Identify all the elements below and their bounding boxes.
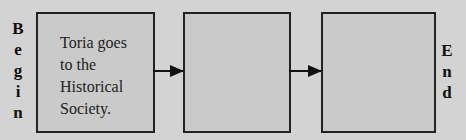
text-line: to the (60, 54, 127, 76)
arrow-1-to-2 (153, 70, 183, 72)
begin-letter: B (12, 18, 23, 39)
end-letter: E (441, 40, 452, 61)
end-letter: n (442, 61, 451, 82)
sequence-box-2 (183, 12, 291, 133)
begin-letter: g (14, 60, 23, 81)
end-letter: d (442, 82, 451, 103)
arrow-2-to-3 (289, 70, 321, 72)
sequence-box-3 (321, 12, 436, 133)
text-line: Society. (60, 98, 127, 120)
sequence-box-1-text: Toria goes to the Historical Society. (60, 32, 127, 120)
begin-letter: i (16, 81, 21, 102)
begin-letter: n (13, 102, 22, 123)
begin-label: B e g i n (10, 18, 26, 123)
begin-letter: e (14, 39, 22, 60)
text-line: Toria goes (60, 32, 127, 54)
text-line: Historical (60, 76, 127, 98)
end-label: E n d (439, 40, 455, 103)
sequence-box-1: Toria goes to the Historical Society. (36, 12, 155, 133)
